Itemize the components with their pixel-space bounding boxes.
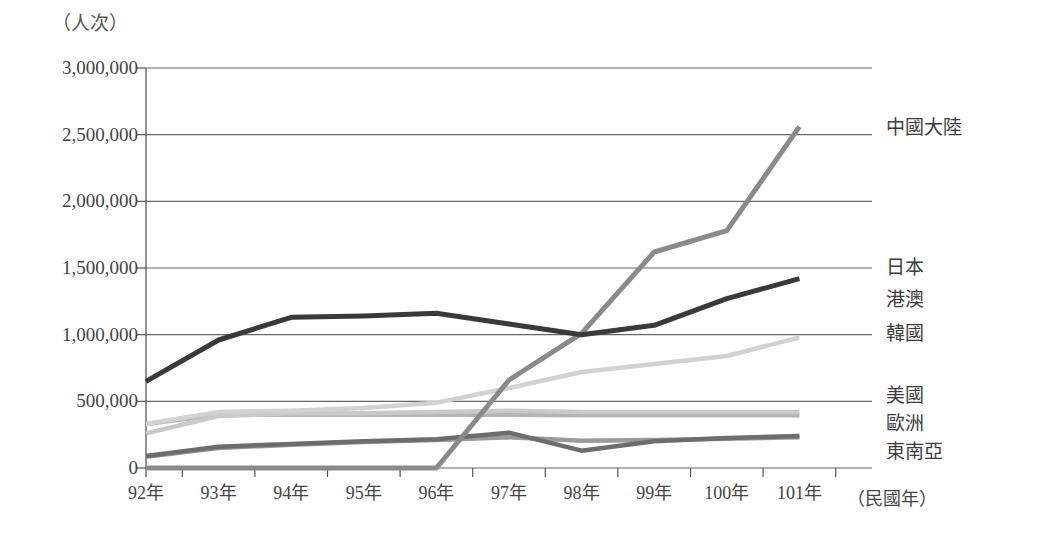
x-tick-label: 101年 [754,484,844,502]
series-label-china: 中國大陸 [886,118,962,137]
series-label-europe: 歐洲 [886,414,924,433]
series-label-seasia: 東南亞 [886,442,943,461]
series-label-hkmacau: 港澳 [886,290,924,309]
x-axis-unit-label: （民國年） [847,484,937,510]
line-chart: （人次） 3,000,0002,500,0002,000,0001,500,00… [0,0,1057,539]
series-label-korea: 韓國 [886,324,924,343]
series-label-japan: 日本 [886,258,924,277]
series-label-usa: 美國 [886,386,924,405]
